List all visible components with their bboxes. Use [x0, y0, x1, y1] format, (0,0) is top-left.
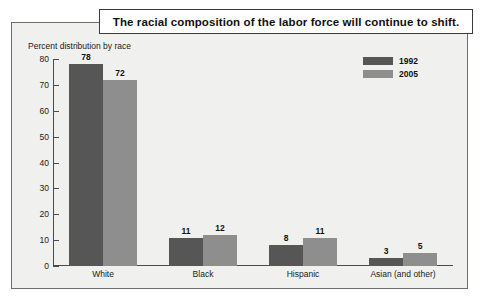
x-axis-category-label: White	[92, 269, 114, 279]
y-axis-tick-mark	[53, 85, 59, 86]
y-axis-tick: 10	[24, 240, 84, 241]
y-axis-tick-label: 10	[24, 235, 49, 245]
bar: 11	[169, 238, 203, 266]
bar-value-label: 78	[81, 52, 90, 62]
x-axis-category-label: Hispanic	[287, 269, 320, 279]
bar: 11	[303, 238, 337, 266]
y-axis-tick-label: 60	[24, 106, 49, 116]
legend-swatch-1992	[363, 57, 393, 65]
y-axis-tick-label: 50	[24, 132, 49, 142]
y-axis-tick-label: 30	[24, 183, 49, 193]
chart-subtitle: Percent distribution by race	[28, 41, 131, 51]
y-axis-tick: 40	[24, 163, 84, 164]
bar: 72	[103, 80, 137, 266]
bar-value-label: 72	[115, 68, 124, 78]
legend-item-2005: 2005	[363, 69, 418, 79]
y-axis-tick-mark	[53, 163, 59, 164]
x-axis-category-label: Asian (and other)	[370, 269, 435, 279]
bar-group: 1112	[169, 59, 237, 266]
bar-value-label: 11	[316, 226, 325, 236]
y-axis-tick-label: 40	[24, 158, 49, 168]
bar: 12	[203, 235, 237, 266]
y-axis-tick: 80	[24, 59, 84, 60]
y-axis-tick-mark	[53, 59, 59, 60]
legend-swatch-2005	[363, 70, 393, 78]
y-axis-tick-mark	[53, 266, 59, 267]
y-axis-tick-label: 70	[24, 80, 49, 90]
bar-group: 35	[369, 59, 437, 266]
y-axis-tick-mark	[53, 214, 59, 215]
y-axis-tick: 30	[24, 188, 84, 189]
y-axis-tick-mark	[53, 240, 59, 241]
legend-item-1992: 1992	[363, 56, 418, 66]
bar-value-label: 11	[182, 226, 191, 236]
legend-label-2005: 2005	[399, 69, 418, 79]
y-axis-tick-label: 0	[24, 261, 49, 271]
bar: 78	[69, 64, 103, 266]
bar: 5	[403, 253, 437, 266]
bar-value-label: 3	[384, 246, 389, 256]
y-axis-tick: 20	[24, 214, 84, 215]
bar: 8	[269, 245, 303, 266]
y-axis-tick-mark	[53, 111, 59, 112]
chart-title-box: The racial composition of the labor forc…	[99, 9, 473, 34]
page-title: The racial composition of the labor forc…	[113, 16, 459, 28]
legend-label-1992: 1992	[399, 56, 418, 66]
bar-value-label: 5	[418, 241, 423, 251]
x-axis-category-label: Black	[193, 269, 214, 279]
y-axis-tick: 0	[24, 266, 84, 267]
chart-legend: 1992 2005	[363, 56, 418, 82]
bar-group: 811	[269, 59, 337, 266]
y-axis-tick-label: 20	[24, 209, 49, 219]
y-axis-tick-mark	[53, 137, 59, 138]
y-axis-tick-label: 80	[24, 54, 49, 64]
y-axis-tick-mark	[53, 188, 59, 189]
y-axis-tick: 50	[24, 137, 84, 138]
bar-value-label: 8	[284, 233, 289, 243]
y-axis-tick: 70	[24, 85, 84, 86]
bar: 3	[369, 258, 403, 266]
y-axis-tick: 60	[24, 111, 84, 112]
plot-area: 7872111281135	[53, 59, 453, 266]
bar-value-label: 12	[215, 223, 224, 233]
